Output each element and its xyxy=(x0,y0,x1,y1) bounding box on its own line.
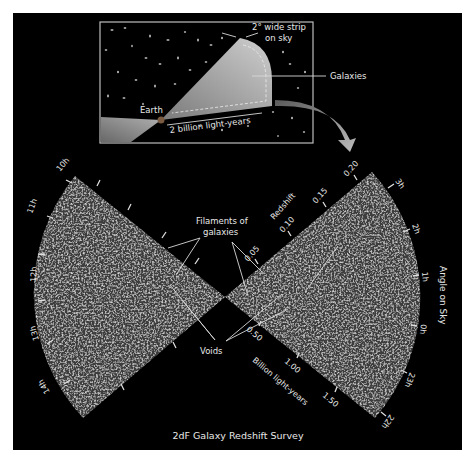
filaments-label-2: galaxies xyxy=(203,227,239,237)
earth-label: Earth xyxy=(140,105,163,115)
redshift-survey-figure: Earth 2° wide strip on sky Galaxies 2 bi… xyxy=(0,0,475,457)
voids-label: Voids xyxy=(200,346,223,356)
strip-width-label-1: 2° wide strip xyxy=(252,22,306,32)
angle-on-sky-title: Angle on Sky xyxy=(438,266,448,325)
tick-0h: 0h xyxy=(418,324,428,335)
earth-icon xyxy=(158,117,165,124)
filaments-label-1: Filaments of xyxy=(196,216,249,226)
tick-1h: 1h xyxy=(420,271,430,282)
galaxies-label: Galaxies xyxy=(330,71,367,81)
strip-width-label-2: on sky xyxy=(265,33,292,43)
tick-12h: 12h xyxy=(29,267,39,283)
figure-caption: 2dF Galaxy Redshift Survey xyxy=(172,430,303,441)
